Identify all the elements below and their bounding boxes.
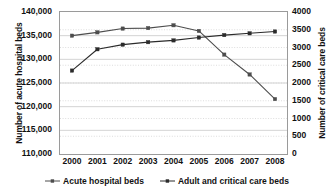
series-line bbox=[72, 25, 275, 99]
x-tick-label: 2001 bbox=[88, 157, 107, 165]
axis-tick-label: 140,000 bbox=[21, 7, 52, 15]
data-point-marker bbox=[96, 31, 99, 34]
plot-svg bbox=[60, 12, 287, 154]
axis-tick-label: 3000 bbox=[292, 43, 311, 51]
axis-tick-label: 1000 bbox=[292, 114, 311, 122]
x-tick-label: 2007 bbox=[240, 157, 259, 165]
data-point-marker bbox=[223, 33, 226, 36]
data-point-marker bbox=[96, 48, 99, 51]
x-tick-label: 2005 bbox=[189, 157, 208, 165]
x-tick-label: 2003 bbox=[139, 157, 158, 165]
axis-tick-label: 110,000 bbox=[22, 149, 52, 157]
axis-tick-label: 4000 bbox=[292, 7, 311, 15]
axis-tick-label: 125,000 bbox=[21, 78, 52, 86]
x-tick-label: 2002 bbox=[113, 157, 132, 165]
data-point-marker bbox=[273, 30, 276, 33]
axis-tick-label: 135,000 bbox=[21, 31, 52, 39]
data-point-marker bbox=[197, 29, 200, 32]
data-point-marker bbox=[248, 73, 251, 76]
axis-tick-label: 115,000 bbox=[22, 125, 52, 133]
legend-entry[interactable]: Acute hospital beds bbox=[45, 176, 144, 186]
series-line bbox=[72, 32, 275, 71]
x-axis-tick-labels: 200020012002200320042005200620072008 bbox=[59, 157, 288, 171]
data-point-marker bbox=[172, 39, 175, 42]
axis-tick-label: 2000 bbox=[292, 78, 311, 86]
data-point-marker bbox=[146, 40, 149, 43]
legend-label: Acute hospital beds bbox=[63, 176, 144, 186]
axis-tick-label: 1500 bbox=[292, 96, 311, 104]
data-point-marker bbox=[197, 36, 200, 39]
data-point-marker bbox=[70, 69, 73, 72]
legend-marker-icon bbox=[45, 177, 60, 185]
series-1 bbox=[70, 24, 276, 101]
line-chart: Number of acute hospital beds Number of … bbox=[0, 0, 334, 196]
chart-legend: Acute hospital bedsAdult and critical ca… bbox=[0, 176, 334, 186]
data-point-marker bbox=[172, 24, 175, 27]
right-axis-tick-labels: 05001000150020002500300035004000 bbox=[292, 0, 332, 196]
axis-tick-label: 2500 bbox=[292, 60, 311, 68]
data-point-marker bbox=[146, 26, 149, 29]
axis-tick-label: 3500 bbox=[292, 25, 311, 33]
data-point-marker bbox=[121, 27, 124, 30]
left-axis-tick-labels: 110,000115,000120,000125,000130,000135,0… bbox=[12, 0, 52, 196]
x-tick-label: 2008 bbox=[266, 157, 285, 165]
data-point-marker bbox=[248, 32, 251, 35]
x-tick-label: 2000 bbox=[63, 157, 82, 165]
data-point-marker bbox=[121, 43, 124, 46]
data-point-marker bbox=[70, 34, 73, 37]
legend-entry[interactable]: Adult and critical care beds bbox=[160, 176, 289, 186]
data-point-marker bbox=[223, 53, 226, 56]
data-point-marker bbox=[273, 97, 276, 100]
x-tick-label: 2004 bbox=[164, 157, 183, 165]
legend-marker-icon bbox=[160, 177, 175, 185]
axis-tick-label: 120,000 bbox=[21, 102, 52, 110]
x-tick-label: 2006 bbox=[215, 157, 234, 165]
legend-label: Adult and critical care beds bbox=[178, 176, 289, 186]
axis-tick-label: 0 bbox=[292, 149, 297, 157]
axis-tick-label: 130,000 bbox=[21, 54, 52, 62]
axis-tick-label: 500 bbox=[292, 131, 306, 139]
series-2 bbox=[70, 30, 276, 72]
plot-area bbox=[59, 11, 288, 155]
